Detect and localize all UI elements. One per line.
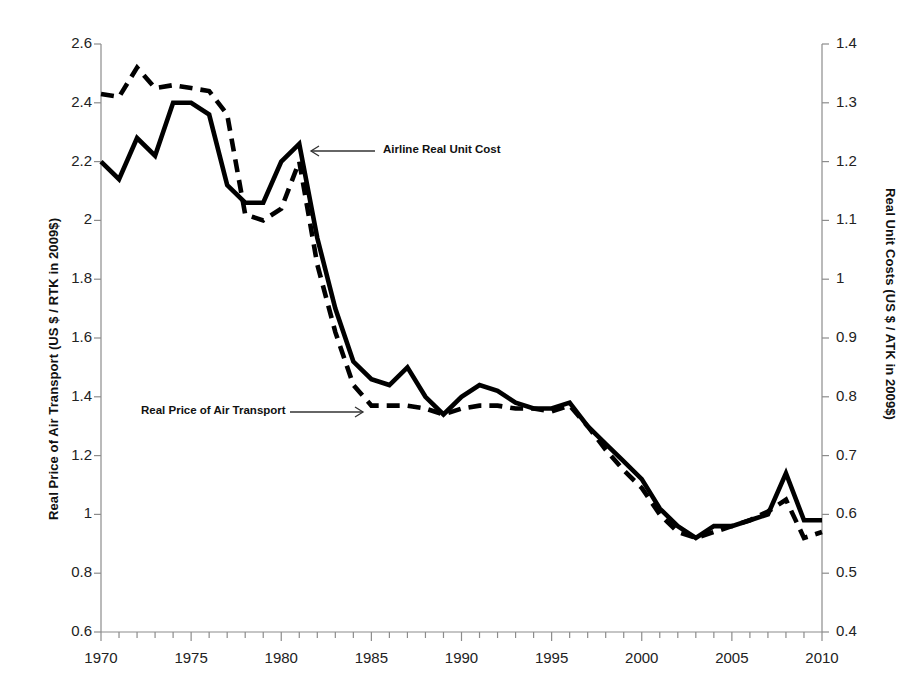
y-tick-label-right: 1	[836, 269, 896, 286]
x-tick-label: 2000	[602, 649, 682, 666]
y-tick-label-left: 1.4	[18, 387, 92, 404]
series-group	[101, 68, 822, 538]
y-tick-label-left: 0.8	[18, 563, 92, 580]
y-tick-label-left: 1.6	[18, 328, 92, 345]
y-tick-label-left: 0.6	[18, 622, 92, 639]
x-tick-label: 1970	[61, 649, 141, 666]
y-tick-label-left: 1.8	[18, 269, 92, 286]
y-tick-label-right: 0.8	[836, 387, 896, 404]
y-tick-label-right: 0.6	[836, 504, 896, 521]
x-tick-label: 1985	[331, 649, 411, 666]
series-line-dashed	[101, 68, 822, 538]
x-tick-label: 1990	[422, 649, 502, 666]
y-tick-label-left: 2	[18, 210, 92, 227]
arrow-left-icon	[311, 146, 375, 156]
x-tick-label: 1975	[151, 649, 231, 666]
plot-area	[0, 0, 916, 700]
y-tick-label-right: 1.2	[836, 152, 896, 169]
y-tick-label-left: 2.6	[18, 34, 92, 51]
x-tick-label: 1980	[241, 649, 321, 666]
y-tick-label-right: 0.7	[836, 446, 896, 463]
y-tick-label-right: 1.4	[836, 34, 896, 51]
y-tick-label-right: 0.5	[836, 563, 896, 580]
y-tick-label-left: 1	[18, 504, 92, 521]
x-tick-label: 1995	[512, 649, 592, 666]
x-tick-label: 2005	[692, 649, 772, 666]
y-tick-label-right: 0.4	[836, 622, 896, 639]
y-tick-label-left: 1.2	[18, 446, 92, 463]
y-tick-label-right: 1.3	[836, 93, 896, 110]
x-tick-label: 2010	[782, 649, 862, 666]
y-tick-label-right: 0.9	[836, 328, 896, 345]
y-tick-label-right: 1.1	[836, 210, 896, 227]
axes-group	[94, 44, 829, 641]
series-line-solid	[101, 103, 822, 538]
y-tick-label-left: 2.4	[18, 93, 92, 110]
chart-container: Real Price of Air Transport (US $ / RTK …	[0, 0, 916, 700]
arrow-right-icon	[290, 407, 363, 417]
y-tick-label-left: 2.2	[18, 152, 92, 169]
